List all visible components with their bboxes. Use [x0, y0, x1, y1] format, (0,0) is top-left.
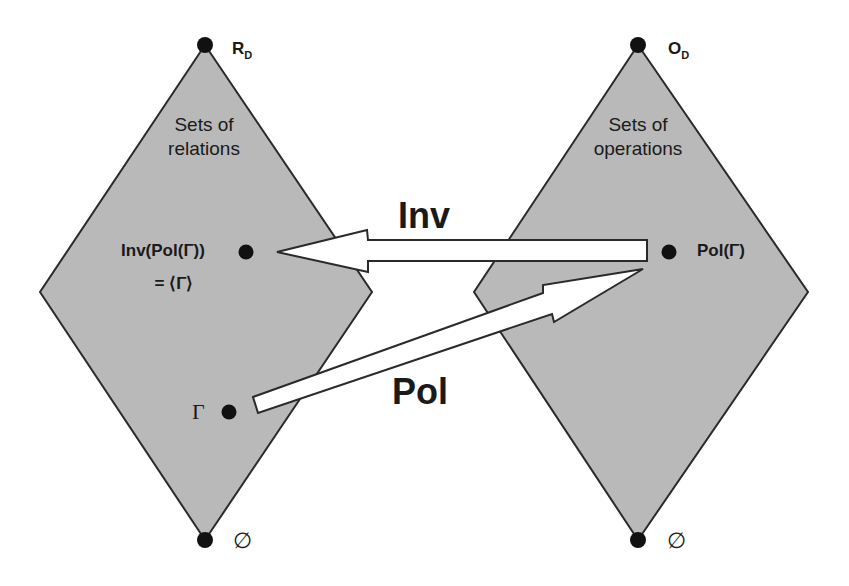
top-vertex-dot-operations [630, 37, 646, 53]
top-vertex-dot-relations [197, 37, 213, 53]
bottom-vertex-dot-operations [630, 532, 646, 548]
pol-point-label: Pol(Γ) [697, 241, 745, 260]
pol-arrow-label: Pol [392, 371, 448, 412]
relations-title-line1: Sets of [174, 114, 234, 135]
top-label-relations: RD [232, 39, 252, 61]
relations-title-line2: relations [168, 138, 240, 159]
bottom-vertex-dot-relations [197, 532, 213, 548]
empty-set-label-operations: ∅ [667, 528, 686, 553]
closure-point-dot [239, 245, 254, 260]
inv-arrow-label: Inv [398, 195, 450, 236]
empty-set-label-relations: ∅ [233, 528, 252, 553]
gamma-point-dot [222, 405, 237, 420]
operations-title-line1: Sets of [608, 114, 668, 135]
pol-point-dot [662, 245, 677, 260]
galois-connection-diagram: RD OD ∅ ∅ Sets of relations Sets of oper… [0, 0, 849, 586]
operations-title-line2: operations [594, 138, 683, 159]
closure-label-line1: Inv(Pol(Γ)) [121, 241, 205, 260]
top-label-operations: OD [668, 39, 689, 61]
closure-label-line2: = ⟨Γ⟩ [155, 274, 194, 293]
gamma-label: Γ [192, 399, 205, 424]
